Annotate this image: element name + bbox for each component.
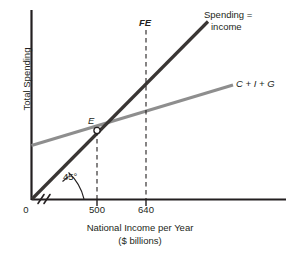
angle-label: 45° bbox=[63, 172, 93, 183]
economics-keynesian-cross-chart: Total Spending 0 500 640 National Income… bbox=[0, 0, 290, 255]
y-axis-title-wrapper: Total Spending bbox=[16, 9, 34, 149]
y-axis-title: Total Spending bbox=[21, 48, 32, 111]
x-tick-label-640: 640 bbox=[132, 205, 160, 216]
full-employment-label: FE bbox=[139, 18, 163, 29]
equilibrium-point-marker bbox=[94, 127, 100, 133]
series-label-c-plus-i-plus-g: C + I + G bbox=[236, 79, 290, 90]
x-axis-title: National Income per Year bbox=[50, 223, 230, 234]
c-plus-i-plus-g-line bbox=[32, 85, 234, 146]
series-label-spending-equals-income-line1: Spending = bbox=[204, 10, 284, 21]
origin-label: 0 bbox=[20, 205, 32, 216]
equilibrium-point-label: E bbox=[88, 116, 102, 127]
chart-canvas bbox=[0, 0, 290, 255]
spending-equals-income-line bbox=[32, 22, 208, 200]
x-tick-label-500: 500 bbox=[83, 205, 111, 216]
series-label-spending-equals-income-line2: income bbox=[211, 22, 290, 33]
x-axis-units: ($ billions) bbox=[50, 236, 230, 247]
